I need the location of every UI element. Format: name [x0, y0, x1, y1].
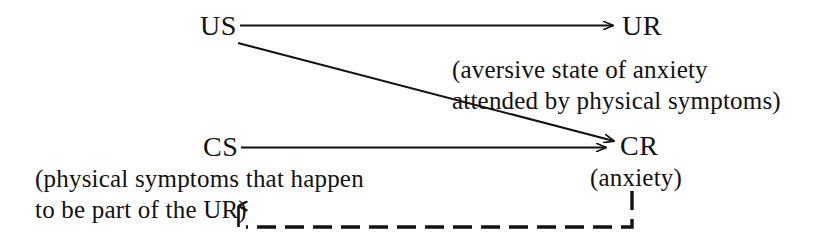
- annotation-cr-note: (anxiety): [590, 165, 682, 190]
- annotation-ur-note-line1: (aversive state of anxiety: [452, 57, 708, 82]
- connector-cr-feedback-dashed: [246, 191, 632, 227]
- node-label-cs: CS: [203, 133, 238, 161]
- node-label-us: US: [200, 12, 237, 40]
- diagram-canvas: US UR CS CR (aversive state of anxiety a…: [0, 0, 831, 247]
- annotation-cs-note-line2: to be part of the UR): [35, 197, 247, 222]
- annotation-cs-note-line1: (physical symptoms that happen: [35, 166, 364, 191]
- annotation-ur-note-line2: attended by physical symptoms): [452, 88, 781, 113]
- node-label-ur: UR: [622, 12, 662, 40]
- node-label-cr: CR: [620, 132, 658, 160]
